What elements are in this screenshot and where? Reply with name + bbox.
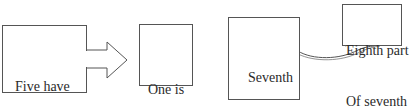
node-label: Seventh yet to come — [248, 35, 293, 111]
label-line: Eighth part — [346, 42, 409, 59]
block-arrow — [86, 42, 127, 78]
label-line: Five have — [15, 78, 70, 95]
label-line: Seventh — [248, 69, 293, 86]
box1-right-border-bottom — [86, 67, 87, 93]
label-line: Of seventh — [346, 93, 409, 110]
node-label: Eighth part Of seventh — [346, 8, 409, 111]
node-label: One is — [148, 47, 184, 111]
box1-right-border-top — [86, 25, 87, 51]
node-label: Five have fallen — [15, 44, 70, 111]
label-line: One is — [148, 81, 184, 98]
